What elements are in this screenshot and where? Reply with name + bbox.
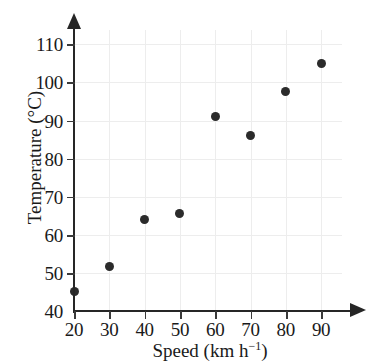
- data-point: [317, 59, 326, 68]
- y-axis-tick: [67, 235, 75, 237]
- data-point: [246, 131, 255, 140]
- x-axis-title-suffix: ): [261, 340, 267, 361]
- gridline-vertical: [321, 30, 322, 311]
- x-axis-tick: [74, 311, 76, 319]
- gridline-horizontal: [74, 197, 342, 198]
- gridline-vertical: [180, 30, 181, 311]
- x-axis-tick: [251, 311, 253, 319]
- x-axis-title: Speed (km h−1): [60, 341, 360, 360]
- x-axis-tick: [109, 311, 111, 319]
- data-point: [105, 262, 114, 271]
- x-axis-tick: [286, 311, 288, 319]
- gridline-vertical: [251, 30, 252, 311]
- x-axis-tick-label: 50: [160, 320, 200, 339]
- gridline-horizontal: [74, 159, 342, 160]
- x-axis-title-prefix: Speed (km h: [152, 340, 248, 361]
- gridline-vertical: [286, 30, 287, 311]
- x-axis-tick-label: 60: [195, 320, 235, 339]
- data-point: [281, 87, 290, 96]
- gridline-horizontal: [74, 235, 342, 236]
- y-axis-tick: [67, 44, 75, 46]
- y-axis-tick-label: 40: [17, 302, 63, 321]
- x-axis-tick-label: 70: [231, 320, 271, 339]
- y-axis-tick: [67, 121, 75, 123]
- y-axis-tick: [67, 197, 75, 199]
- y-axis-arrow-icon: [67, 13, 81, 29]
- x-axis-tick: [145, 311, 147, 319]
- y-axis-line: [73, 26, 75, 313]
- x-axis-tick-label: 90: [301, 320, 341, 339]
- gridline-horizontal: [74, 82, 342, 83]
- x-axis-tick-label: 30: [89, 320, 129, 339]
- x-axis-arrow-icon: [350, 303, 366, 317]
- x-axis-tick: [321, 311, 323, 319]
- x-axis-tick-label: 80: [266, 320, 306, 339]
- x-axis-tick: [215, 311, 217, 319]
- data-point: [175, 209, 184, 218]
- y-axis-tick: [67, 82, 75, 84]
- gridline-vertical: [215, 30, 216, 311]
- data-point: [140, 215, 149, 224]
- gridline-horizontal: [74, 121, 342, 122]
- scatter-chart: 2030405060708090405060708090100110 Tempe…: [0, 0, 370, 364]
- x-axis-tick-label: 20: [54, 320, 94, 339]
- gridline-vertical: [145, 30, 146, 311]
- data-point: [211, 112, 220, 121]
- y-axis-tick: [67, 273, 75, 275]
- y-axis-tick: [67, 159, 75, 161]
- plot-area: [74, 30, 342, 311]
- x-axis-tick: [180, 311, 182, 319]
- x-axis-title-superscript: −1: [248, 339, 261, 353]
- y-axis-title: Temperature (°C): [25, 43, 44, 273]
- gridline-horizontal: [74, 273, 342, 274]
- x-axis-tick-label: 40: [125, 320, 165, 339]
- gridline-horizontal: [74, 44, 342, 45]
